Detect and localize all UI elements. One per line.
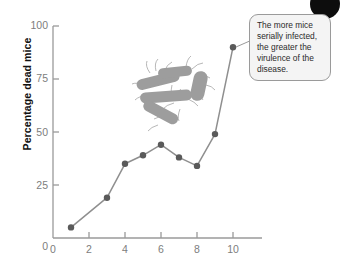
bacterium-5: [141, 99, 180, 127]
data-point: [230, 44, 236, 50]
callout-bubble: The more mice serially infected, the gre…: [249, 14, 331, 81]
data-point: [140, 152, 146, 158]
data-point: [176, 154, 182, 160]
data-point: [194, 163, 200, 169]
data-point: [104, 195, 110, 201]
bacterium-2: [158, 65, 193, 78]
callout-text: The more mice serially infected, the gre…: [257, 20, 324, 75]
bacteria-illustration: [128, 55, 224, 141]
chart-figure: Percentage dead mice 100 75 50 25 0 0 2 …: [0, 0, 342, 264]
data-point: [122, 161, 128, 167]
bacteria-cells: [135, 65, 209, 126]
bacterium-3: [189, 70, 209, 102]
data-point: [68, 224, 74, 230]
data-point: [158, 142, 164, 148]
